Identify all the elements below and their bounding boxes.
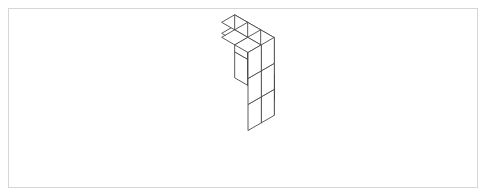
isometric-cube-figure — [0, 0, 486, 196]
voxel-group — [222, 15, 274, 131]
